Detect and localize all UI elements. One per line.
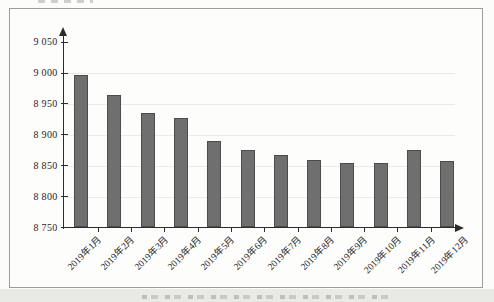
x-axis-tick [164,228,165,232]
page-bottom-margin [0,289,494,302]
bar-2019年5月 [207,141,221,228]
bar-2019年7月 [274,155,288,228]
bar-2019年3月 [141,113,155,227]
x-axis-tick [364,228,365,232]
x-axis-arrow-icon [455,224,464,232]
x-axis-tick [131,228,132,232]
x-axis-tick [397,228,398,232]
gridline [65,73,456,74]
y-axis [63,34,64,229]
y-axis-arrow-icon [59,27,67,36]
y-axis-label: 8 750 [22,222,58,234]
gridline [65,197,456,198]
y-axis-label: 8 850 [22,160,58,172]
y-axis-tick [61,73,68,74]
y-axis-tick [61,165,68,166]
x-axis-tick [331,228,332,232]
x-axis-label: 2019年4月 [166,234,204,272]
bar-2019年8月 [307,160,321,227]
y-axis-tick [61,134,68,135]
x-axis-label: 2019年6月 [232,234,270,272]
x-axis-tick [231,228,232,232]
bar-2019年6月 [241,150,255,228]
y-axis-label: 8 900 [22,129,58,141]
bar-2019年1月 [74,75,88,228]
y-axis-label: 8 800 [22,191,58,203]
x-axis-label: 2019年8月 [299,234,337,272]
gridline [65,104,456,105]
x-axis-tick [298,228,299,232]
x-axis-label: 2019年3月 [132,234,170,272]
bar-2019年11月 [407,150,421,228]
bar-2019年9月 [340,163,354,228]
y-axis-label: 9 000 [22,67,58,79]
x-axis-tick [431,228,432,232]
y-axis-label: 9 050 [22,36,58,48]
y-axis-tick [61,103,68,104]
bar-2019年12月 [440,161,454,227]
cropped-caption-fragment [142,295,394,299]
scanned-page: 9 0509 0008 9508 9008 8508 8008 7502019年… [0,0,494,302]
y-axis-tick [61,196,68,197]
bar-chart: 9 0509 0008 9508 9008 8508 8008 7502019年… [0,0,494,302]
x-axis-label: 2019年2月 [99,234,137,272]
bar-2019年2月 [107,95,121,228]
x-axis-label: 2019年5月 [199,234,237,272]
gridline [65,135,456,136]
gridline [65,166,456,167]
x-axis-label: 2019年7月 [266,234,304,272]
y-axis-tick [61,227,68,228]
bar-2019年4月 [174,118,188,227]
bar-2019年10月 [374,163,388,228]
x-axis-tick [264,228,265,232]
y-axis-label: 8 950 [22,98,58,110]
y-axis-tick [61,42,68,43]
x-axis-tick [198,228,199,232]
x-axis-tick [98,228,99,232]
x-axis-label: 2019年1月 [66,234,104,272]
